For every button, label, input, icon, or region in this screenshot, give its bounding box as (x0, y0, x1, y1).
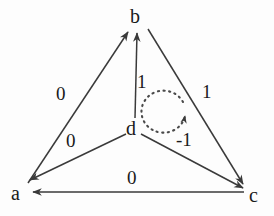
node-label-b: b (130, 6, 140, 26)
edge-weight-d-to-a: 0 (66, 131, 76, 150)
graph-canvas (0, 0, 274, 216)
node-label-c: c (249, 185, 258, 205)
edge-weight-d-to-c: -1 (176, 130, 192, 149)
self-loop-d-path (141, 91, 185, 133)
edge-weight-b-to-c: 1 (202, 82, 212, 101)
graph-diagram: a b c d 0 1 1 0 -1 0 (0, 0, 274, 216)
edge-weight-a-to-b: 0 (56, 84, 66, 103)
edge-weight-d-to-b: 1 (137, 72, 147, 91)
node-label-d: d (126, 118, 136, 138)
edge-a-to-b (28, 32, 128, 183)
edge-b-to-c (148, 29, 243, 184)
node-label-a: a (11, 183, 20, 203)
edge-d-to-c (141, 134, 243, 188)
edge-weight-c-to-a: 0 (127, 168, 137, 187)
